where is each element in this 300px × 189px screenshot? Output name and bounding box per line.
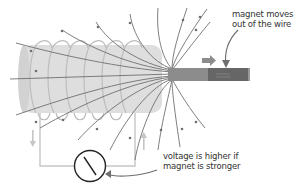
induction-diagram: magnet moves out of the wire voltage is … bbox=[0, 0, 300, 189]
magnet-pole-dark bbox=[208, 68, 248, 81]
motion-arrow bbox=[202, 55, 216, 66]
motion-arrow-body bbox=[202, 58, 210, 63]
current-arrow-up bbox=[143, 137, 145, 150]
voltage-leader-line bbox=[106, 170, 157, 176]
wire-left bbox=[40, 113, 75, 166]
voltage-leader-head bbox=[105, 170, 111, 178]
voltage-label-line-1: voltage is higher if bbox=[163, 151, 240, 161]
current-arrow-down-head bbox=[30, 141, 37, 147]
magnet-motion-label: magnet moves out of the wire bbox=[232, 9, 293, 29]
magnet-leader-head bbox=[222, 60, 230, 68]
magnet-end bbox=[248, 68, 250, 81]
voltmeter bbox=[75, 151, 106, 182]
bar-magnet bbox=[168, 68, 250, 81]
voltage-label-line-2: magnet is stronger bbox=[163, 161, 240, 171]
motion-arrow-head bbox=[210, 55, 216, 66]
current-arrow-down bbox=[32, 130, 34, 142]
voltage-label: voltage is higher if magnet is stronger bbox=[163, 151, 240, 171]
wire-right bbox=[105, 113, 135, 166]
magnet-pole-light bbox=[168, 68, 210, 81]
magnet-label-line-1: magnet moves bbox=[232, 9, 293, 19]
current-arrows bbox=[30, 130, 148, 150]
magnet-label-line-2: out of the wire bbox=[232, 19, 293, 29]
